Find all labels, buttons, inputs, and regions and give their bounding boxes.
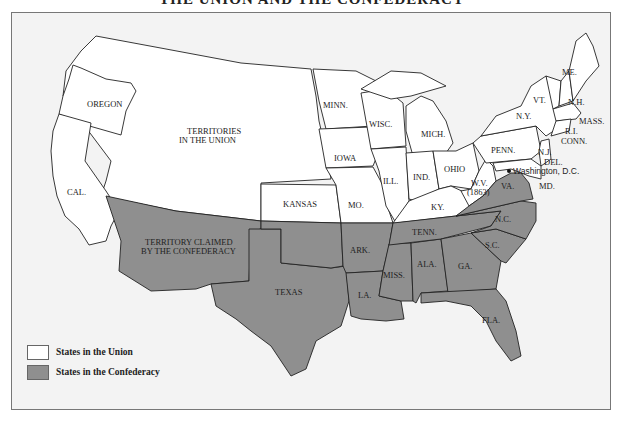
label-maine: ME. [562, 67, 577, 77]
label-missouri: MO. [348, 200, 364, 210]
label-maryland: MD. [539, 181, 555, 191]
label-new-jersey: N.J. [538, 147, 552, 157]
label-connecticut: CONN. [561, 136, 587, 146]
label-kentucky: KY. [431, 202, 444, 212]
label-arkansas: ARK. [350, 245, 370, 255]
union-swatch [27, 345, 49, 360]
label-virginia: VA. [501, 181, 514, 191]
map-title: THE UNION AND THE CONFEDERACY [0, 0, 624, 8]
legend-label-union: States in the Union [56, 347, 133, 357]
label-massachusetts: MASS. [579, 116, 604, 126]
label-texas: TEXAS [275, 287, 303, 297]
label-oregon: OREGON [87, 99, 122, 109]
map-legend: States in the Union States in the Confed… [27, 342, 160, 382]
state-florida [421, 289, 521, 361]
confederacy-swatch [27, 365, 49, 380]
label-georgia: GA. [458, 261, 472, 271]
label-illinois: ILL. [383, 176, 398, 186]
label-minnesota: MINN. [323, 100, 348, 110]
label-indiana: IND. [413, 172, 430, 182]
legend-label-confederacy: States in the Confederacy [56, 367, 160, 377]
label-kansas: KANSAS [283, 199, 317, 209]
label-territory-confederacy-2: BY THE CONFEDERACY [141, 246, 236, 256]
label-louisiana: LA. [358, 290, 371, 300]
label-south-carolina: S.C. [485, 240, 500, 250]
label-wisconsin: WISC. [369, 119, 392, 129]
label-tennessee: TENN. [412, 227, 437, 237]
label-pennsylvania: PENN. [491, 145, 515, 155]
legend-item-union: States in the Union [27, 342, 160, 362]
label-iowa: IOWA [334, 153, 357, 163]
label-west-virginia-2: (1863) [467, 187, 490, 197]
label-california: CAL. [67, 187, 86, 197]
label-rhode-island: R.I. [565, 126, 578, 136]
legend-item-confederacy: States in the Confederacy [27, 362, 160, 382]
label-alabama: ALA. [417, 259, 437, 269]
label-ohio: OHIO [444, 164, 465, 174]
label-new-york: N.Y. [516, 111, 531, 121]
label-territories-union-2: IN THE UNION [179, 135, 236, 145]
label-washington-dc: Washington, D.C. [513, 166, 579, 176]
washington-dc-marker [507, 169, 511, 173]
label-michigan: MICH. [421, 129, 445, 139]
label-florida: FLA. [482, 315, 500, 325]
label-new-hampshire: N.H. [568, 97, 585, 107]
label-mississippi: MISS. [383, 270, 405, 280]
label-vermont: VT. [533, 95, 546, 105]
label-north-carolina: N.C. [495, 214, 511, 224]
